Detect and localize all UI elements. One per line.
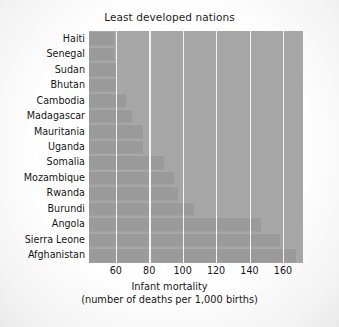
gridline-60 — [116, 31, 117, 263]
bar-burundi — [89, 202, 194, 217]
x-axis-label-line2: (number of deaths per 1,000 births) — [0, 293, 339, 306]
bar-row — [89, 155, 303, 170]
bar-sierra-leone — [89, 233, 280, 248]
bar-row — [89, 186, 303, 201]
x-axis-tick-labels: 6080100120140160 — [89, 263, 303, 279]
gridline-80 — [149, 31, 150, 263]
y-label-somalia: Somalia — [0, 156, 85, 167]
x-tick-100: 100 — [173, 265, 191, 276]
y-label-uganda: Uganda — [0, 141, 85, 152]
bar-row — [89, 109, 303, 124]
bar-rwanda — [89, 186, 178, 201]
y-label-sierra-leone: Sierra Leone — [0, 234, 85, 245]
y-label-afghanistan: Afghanistan — [0, 249, 85, 260]
chart-title: Least developed nations — [0, 11, 339, 23]
gridline-100 — [183, 31, 184, 263]
y-label-mauritania: Mauritania — [0, 126, 85, 137]
bar-somalia — [89, 155, 164, 170]
bar-row — [89, 248, 303, 263]
y-label-haiti: Haiti — [0, 33, 85, 44]
y-label-mozambique: Mozambique — [0, 172, 85, 183]
bar-row — [89, 171, 303, 186]
x-tick-160: 160 — [274, 265, 292, 276]
y-label-angola: Angola — [0, 218, 85, 229]
bar-cambodia — [89, 93, 126, 108]
bar-row — [89, 31, 303, 46]
chart-figure: Least developed nations HaitiSenegalSuda… — [0, 0, 339, 327]
bar-series — [89, 31, 303, 263]
bar-row — [89, 140, 303, 155]
x-axis-label-line1: Infant mortality — [131, 281, 207, 292]
y-label-sudan: Sudan — [0, 64, 85, 75]
x-tick-60: 60 — [110, 265, 122, 276]
bar-row — [89, 47, 303, 62]
bar-row — [89, 217, 303, 232]
bar-row — [89, 124, 303, 139]
y-label-senegal: Senegal — [0, 48, 85, 59]
y-label-burundi: Burundi — [0, 203, 85, 214]
y-label-madagascar: Madagascar — [0, 110, 85, 121]
gridline-160 — [283, 31, 284, 263]
bar-mozambique — [89, 171, 174, 186]
bar-sudan — [89, 62, 116, 77]
bar-row — [89, 93, 303, 108]
bar-madagascar — [89, 109, 132, 124]
y-label-rwanda: Rwanda — [0, 187, 85, 198]
bar-row — [89, 78, 303, 93]
bar-senegal — [89, 47, 114, 62]
x-tick-120: 120 — [207, 265, 225, 276]
y-axis-category-labels: HaitiSenegalSudanBhutanCambodiaMadagasca… — [0, 31, 85, 263]
y-label-bhutan: Bhutan — [0, 79, 85, 90]
bar-row — [89, 233, 303, 248]
plot-area — [89, 31, 303, 263]
bar-afghanistan — [89, 248, 296, 263]
x-tick-140: 140 — [240, 265, 258, 276]
gridline-140 — [250, 31, 251, 263]
x-tick-80: 80 — [143, 265, 155, 276]
bar-row — [89, 62, 303, 77]
bar-bhutan — [89, 78, 117, 93]
bar-haiti — [89, 31, 114, 46]
gridline-120 — [216, 31, 217, 263]
bar-row — [89, 202, 303, 217]
x-axis-label: Infant mortality (number of deaths per 1… — [0, 280, 339, 306]
y-label-cambodia: Cambodia — [0, 95, 85, 106]
